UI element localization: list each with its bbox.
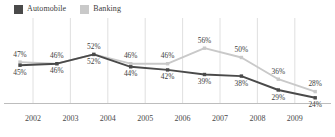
data-point-automobile-0 (18, 64, 21, 67)
data-point-banking-5 (203, 47, 206, 50)
point-label-automobile-0: 45% (13, 68, 27, 77)
point-label-automobile-1: 46% (50, 66, 64, 75)
point-label-automobile-4: 42% (161, 72, 175, 81)
data-point-banking-4 (166, 62, 169, 65)
legend-swatch-automobile (14, 5, 23, 14)
data-point-automobile-4 (166, 68, 169, 71)
x-tick-label-2006: 2006 (175, 114, 191, 123)
point-label-banking-7: 36% (272, 67, 286, 76)
point-label-automobile-7: 29% (272, 93, 286, 102)
point-label-banking-1: 46% (50, 51, 64, 60)
chart-x-tick-labels: 20022003200420052006200720082009 (25, 114, 303, 123)
point-label-banking-4: 46% (161, 51, 175, 60)
data-point-banking-7 (277, 78, 280, 81)
data-point-automobile-3 (129, 65, 132, 68)
x-tick-label-2007: 2007 (212, 114, 228, 123)
x-tick-label-2002: 2002 (25, 114, 41, 123)
point-label-banking-5: 56% (198, 36, 212, 45)
legend-swatch-banking (80, 5, 89, 14)
point-label-automobile-8: 24% (308, 100, 322, 109)
data-point-banking-0 (18, 60, 21, 63)
x-tick-label-2005: 2005 (137, 114, 153, 123)
data-point-banking-8 (314, 90, 317, 93)
x-tick-label-2004: 2004 (100, 114, 116, 123)
x-tick-label-2009: 2009 (287, 114, 303, 123)
chart-point-labels: 45%46%52%44%42%39%38%29%24%47%46%52%46%4… (13, 36, 322, 110)
legend-label-banking: Banking (93, 5, 121, 13)
point-label-automobile-6: 38% (235, 79, 249, 88)
point-label-banking-0: 47% (13, 50, 27, 59)
legend-item-banking: Banking (80, 5, 121, 14)
data-point-banking-6 (240, 56, 243, 59)
point-label-banking-6: 50% (235, 45, 249, 54)
point-label-banking-2: 52% (87, 42, 101, 51)
chart-container: Automobile Banking 45%46%52%44%42%39%38%… (0, 0, 335, 137)
point-label-automobile-2: 52% (87, 57, 101, 66)
x-tick-label-2003: 2003 (62, 114, 78, 123)
data-point-automobile-6 (240, 74, 243, 77)
x-tick-label-2008: 2008 (249, 114, 265, 123)
point-label-automobile-3: 44% (124, 69, 138, 78)
point-label-banking-3: 46% (124, 51, 138, 60)
data-point-automobile-5 (203, 73, 206, 76)
chart-legend: Automobile Banking (14, 2, 121, 16)
data-point-automobile-2 (92, 53, 95, 56)
point-label-banking-8: 28% (308, 79, 322, 88)
legend-item-automobile: Automobile (14, 5, 66, 14)
line-chart-plot: 45%46%52%44%42%39%38%29%24%47%46%52%46%4… (0, 18, 335, 137)
data-point-automobile-1 (55, 62, 58, 65)
data-point-automobile-7 (277, 88, 280, 91)
data-point-banking-3 (129, 62, 132, 65)
legend-label-automobile: Automobile (27, 5, 66, 13)
point-label-automobile-5: 39% (198, 77, 212, 86)
data-point-automobile-8 (314, 96, 317, 99)
